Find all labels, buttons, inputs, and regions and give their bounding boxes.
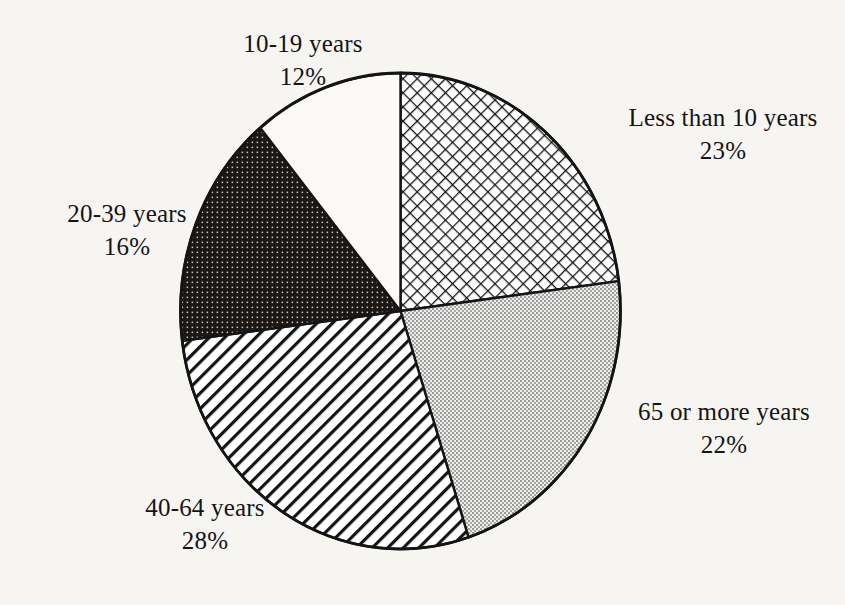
pie-label-10-19-years-name: 10-19 years [196, 28, 410, 61]
pie-label-less-than-10-years-name: Less than 10 years [600, 102, 845, 135]
pie-label-40-64-years-value: 28% [96, 525, 314, 558]
pie-label-10-19-years-value: 12% [196, 61, 410, 94]
pie-label-10-19-years: 10-19 years 12% [196, 28, 410, 93]
pie-label-20-39-years-name: 20-39 years [24, 198, 230, 231]
pie-label-20-39-years-value: 16% [24, 231, 230, 264]
pie-label-less-than-10-years-value: 23% [600, 135, 845, 168]
pie-slice-less-than-10-years[interactable] [401, 73, 619, 311]
pie-label-65-or-more-years-name: 65 or more years [605, 396, 843, 429]
pie-label-less-than-10-years: Less than 10 years 23% [600, 102, 845, 167]
pie-chart-page: 10-19 years 12% Less than 10 years 23% 2… [0, 0, 845, 605]
pie-label-65-or-more-years-value: 22% [605, 429, 843, 462]
pie-label-20-39-years: 20-39 years 16% [24, 198, 230, 263]
pie-label-40-64-years-name: 40-64 years [96, 492, 314, 525]
pie-slices [181, 73, 621, 549]
pie-label-40-64-years: 40-64 years 28% [96, 492, 314, 557]
pie-label-65-or-more-years: 65 or more years 22% [605, 396, 843, 461]
